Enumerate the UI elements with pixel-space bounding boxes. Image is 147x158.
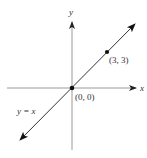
line-y-equals-x bbox=[20, 24, 135, 140]
point-3-3 bbox=[105, 50, 109, 54]
origin-label: (0, 0) bbox=[75, 92, 95, 102]
graph-y-equals-x: y x (3, 3) (0, 0) y = x bbox=[0, 0, 147, 158]
y-axis-label: y bbox=[68, 7, 73, 17]
point-3-3-label: (3, 3) bbox=[109, 55, 129, 65]
line-equation-label: y = x bbox=[16, 106, 36, 116]
x-axis-label: x bbox=[139, 83, 144, 93]
origin-point bbox=[70, 86, 75, 91]
